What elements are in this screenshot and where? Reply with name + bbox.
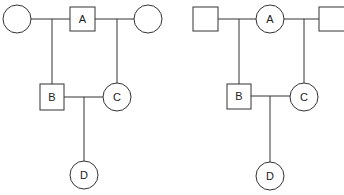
individual-a: A bbox=[70, 7, 95, 31]
individual-b: B bbox=[227, 84, 251, 109]
individual-c: C bbox=[103, 83, 131, 111]
individual-label: A bbox=[79, 13, 87, 25]
individual-label: B bbox=[235, 90, 242, 102]
individual-label: B bbox=[48, 91, 55, 103]
pedigree-diagrams: A B C D A B bbox=[0, 0, 344, 195]
individual-label: D bbox=[80, 169, 88, 181]
right-spouse-female-symbol bbox=[134, 5, 162, 33]
individual-label: C bbox=[113, 91, 121, 103]
individual-label: A bbox=[266, 13, 274, 25]
individual-label: C bbox=[300, 91, 308, 103]
individual-d: D bbox=[70, 161, 98, 189]
individual-b: B bbox=[40, 84, 64, 110]
right-spouse-male-symbol bbox=[319, 7, 344, 31]
individual-label: D bbox=[266, 170, 274, 182]
left-spouse-male-symbol bbox=[193, 7, 218, 31]
individual-d: D bbox=[256, 162, 284, 190]
pedigree-left: A B C D bbox=[3, 5, 162, 189]
pedigree-right: A B C D bbox=[193, 5, 344, 190]
individual-c: C bbox=[290, 83, 318, 111]
left-spouse-female-symbol bbox=[3, 5, 31, 33]
individual-a: A bbox=[256, 5, 284, 33]
